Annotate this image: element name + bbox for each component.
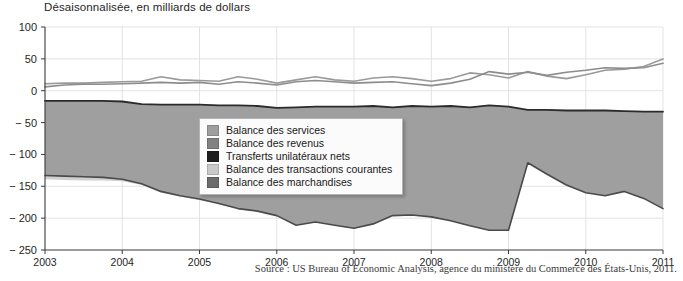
- legend-swatch-revenus: [207, 138, 219, 149]
- svg-text:− 200: − 200: [9, 212, 37, 224]
- y-axis-ticks: 100500− 50− 100− 150− 200− 250: [9, 21, 45, 256]
- legend-swatch-transferts: [207, 151, 219, 162]
- chart-container: Désaisonnalisée, en milliards de dollars…: [0, 0, 683, 281]
- svg-text:− 100: − 100: [9, 148, 37, 160]
- svg-text:50: 50: [25, 53, 37, 65]
- legend-item: Balance des transactions courantes: [207, 163, 392, 176]
- svg-text:100: 100: [19, 21, 37, 33]
- svg-text:− 50: − 50: [15, 117, 37, 129]
- legend-label: Balance des marchandises: [226, 176, 352, 189]
- legend-label: Balance des transactions courantes: [226, 163, 392, 176]
- svg-text:− 150: − 150: [9, 180, 37, 192]
- legend-item: Balance des services: [207, 124, 392, 137]
- svg-text:− 250: − 250: [9, 244, 37, 256]
- source-note: Source : US Bureau of Economic Analysis,…: [0, 263, 677, 274]
- legend-item: Balance des revenus: [207, 137, 392, 150]
- legend-label: Balance des services: [226, 124, 325, 137]
- svg-text:0: 0: [31, 85, 37, 97]
- legend-item: Balance des marchandises: [207, 176, 392, 189]
- legend-label: Balance des revenus: [226, 137, 324, 150]
- legend-item: Transferts unilatéraux nets: [207, 150, 392, 163]
- legend-label: Transferts unilatéraux nets: [226, 150, 350, 163]
- legend-swatch-transactions-courantes: [207, 164, 219, 175]
- chart-legend: Balance des services Balance des revenus…: [199, 118, 403, 195]
- legend-swatch-marchandises: [207, 177, 219, 188]
- legend-swatch-services: [207, 125, 219, 136]
